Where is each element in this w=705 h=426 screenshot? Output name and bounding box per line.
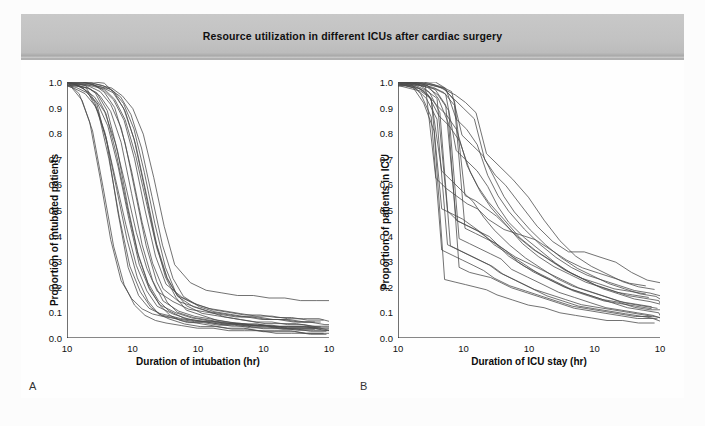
y-tick-label: 0.4 (380, 230, 393, 241)
y-tick-label: 0.4 (49, 230, 62, 241)
panel-a-x-axis-label: Duration of intubation (hr) (67, 356, 329, 367)
x-tick-label: 10 (393, 343, 404, 354)
survival-curve (398, 82, 660, 318)
y-tick-label: 0.8 (49, 128, 62, 139)
x-tick-label: 10 (524, 343, 535, 354)
y-tick-label: 0.7 (49, 153, 62, 164)
survival-curve (69, 85, 329, 333)
panel-a-curves (67, 82, 329, 338)
y-tick-label: 0.6 (49, 179, 62, 190)
x-tick-label: 10 (458, 343, 469, 354)
y-tick-label: 0.5 (380, 205, 393, 216)
y-tick-label: 0.2 (49, 281, 62, 292)
x-tick-label: 10 (324, 343, 335, 354)
survival-curve (69, 84, 329, 325)
y-tick-label: 0.9 (380, 102, 393, 113)
figure-title-banner: Resource utilization in different ICUs a… (21, 14, 684, 60)
y-tick-label: 0.2 (380, 281, 393, 292)
y-tick-label: 0.8 (380, 128, 393, 139)
survival-curve (67, 83, 326, 331)
survival-curve (398, 85, 654, 323)
panel-b-plot-area: 0.00.10.20.30.40.50.60.70.80.91.01010101… (398, 82, 660, 338)
y-tick-label: 0.6 (380, 179, 393, 190)
x-tick-label: 10 (62, 343, 73, 354)
panel-a-plot-area: 0.00.10.20.30.40.50.60.70.80.91.01010101… (67, 82, 329, 338)
y-tick-label: 0.0 (49, 333, 62, 344)
y-tick-label: 0.3 (49, 256, 62, 267)
y-tick-label: 0.1 (49, 307, 62, 318)
panel-b: Proportion of patients in ICU 0.00.10.20… (352, 60, 683, 398)
survival-curve (67, 85, 317, 328)
figure-white-field: Proportion of intubated patients 0.00.10… (21, 60, 684, 398)
y-tick-label: 1.0 (49, 77, 62, 88)
panel-b-curves (398, 82, 660, 338)
x-tick-label: 10 (193, 343, 204, 354)
x-tick-label: 10 (655, 343, 666, 354)
panel-a-label: A (29, 380, 36, 392)
y-tick-label: 0.9 (49, 102, 62, 113)
figure-container: Resource utilization in different ICUs a… (0, 0, 705, 426)
panel-a: Proportion of intubated patients 0.00.10… (21, 60, 352, 398)
survival-curve (70, 85, 329, 331)
y-tick-label: 1.0 (380, 77, 393, 88)
x-tick-label: 10 (127, 343, 138, 354)
figure-title: Resource utilization in different ICUs a… (203, 30, 503, 42)
survival-curve (67, 82, 320, 327)
survival-curve (70, 83, 329, 326)
panel-b-x-axis-label: Duration of ICU stay (hr) (398, 356, 660, 367)
survival-curve (67, 82, 314, 329)
panel-b-label: B (360, 380, 367, 392)
y-tick-label: 0.0 (380, 333, 393, 344)
x-tick-label: 10 (589, 343, 600, 354)
y-tick-label: 0.7 (380, 153, 393, 164)
y-tick-label: 0.1 (380, 307, 393, 318)
y-tick-label: 0.3 (380, 256, 393, 267)
x-tick-label: 10 (258, 343, 269, 354)
survival-curve (398, 86, 657, 319)
y-tick-label: 0.5 (49, 205, 62, 216)
